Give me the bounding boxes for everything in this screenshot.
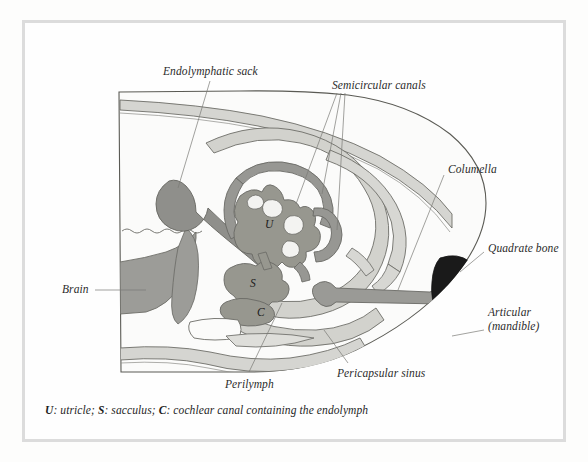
label-endolymphatic-sack: Endolymphatic sack — [163, 64, 258, 78]
caption-c-text: : cochlear canal containing the endolymp… — [166, 404, 368, 416]
figure-root: Endolymphatic sack Semicircular canals C… — [0, 0, 588, 462]
label-articular-mandible: Articular (mandible) — [488, 305, 574, 334]
label-semicircular-canals: Semicircular canals — [332, 78, 426, 92]
quadrate-bone-shape — [432, 256, 481, 321]
label-perilymph: Perilymph — [225, 377, 274, 391]
utricle-void-c — [282, 241, 300, 258]
label-brain: Brain — [62, 282, 89, 296]
label-quadrate-bone: Quadrate bone — [488, 241, 559, 255]
utricle-void-a — [263, 200, 283, 218]
articular-mandible-shape — [428, 321, 474, 350]
utricle-notch-void — [247, 195, 263, 209]
organ-letter-utricle: U — [265, 218, 273, 230]
organ-letter-sacculus: S — [250, 277, 256, 289]
utricle-void-b — [284, 216, 303, 235]
caption-s-text: : sacculus; — [104, 404, 158, 416]
caption-u-text: : utricle; — [53, 404, 98, 416]
anatomy-diagram — [0, 0, 588, 462]
label-pericapsular-sinus: Pericapsular sinus — [337, 366, 425, 380]
organ-letter-cochlear-canal: C — [257, 306, 265, 318]
label-articular-line1: Articular — [488, 306, 531, 318]
leader-articular — [452, 330, 484, 336]
label-articular-line2: (mandible) — [488, 320, 539, 332]
figure-caption: U: utricle; S: sacculus; C: cochlear can… — [45, 404, 368, 416]
label-columella: Columella — [448, 162, 497, 176]
